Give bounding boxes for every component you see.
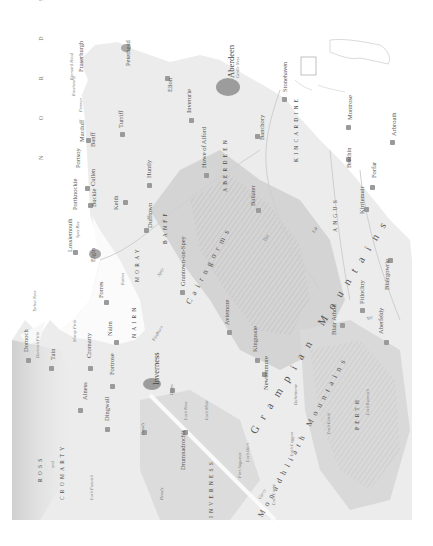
settlement-marker [390, 140, 395, 145]
settlement-marker [282, 97, 287, 102]
town-nairn: Nairn [107, 321, 114, 336]
town-kingussie: Kingussie [252, 326, 259, 352]
town-tain: Tain [50, 349, 57, 360]
town-lossiemouth: Lossiemouth [67, 218, 74, 252]
label-moray-firth: Moray Firth [73, 320, 78, 342]
town-pitlochry: Pitlochry [359, 280, 366, 304]
inset-map [295, 39, 390, 92]
settlement-marker [384, 340, 389, 345]
town-drumnadrochit: Drumnadrochit [180, 430, 187, 470]
label-loch-fannich: Loch Fannich [90, 475, 95, 500]
region-ross: ROSS [38, 455, 44, 482]
town-newtonmore: Newtonmore [263, 356, 270, 390]
settlement-marker [114, 340, 119, 345]
town-aviemore: Aviemore [224, 299, 231, 325]
town-rothes: Rothes [121, 273, 126, 285]
town-beauly: Beauly [141, 423, 146, 436]
town-peterhead: Peterhead [125, 40, 132, 66]
town-alness: Alness [82, 382, 89, 400]
town-dores: Dores [170, 384, 175, 395]
town-huntly: Huntly [146, 160, 153, 178]
town-fortrose: Fortrose [109, 353, 116, 375]
town-stonehaven: Stonehaven [282, 62, 289, 92]
settlement-marker [227, 330, 232, 335]
settlement-marker [256, 208, 261, 213]
town-inverurie: Inverurie [186, 89, 193, 113]
town-blairgowrie: Blairgowrie [384, 259, 391, 290]
region-inverness: INVERNESS [209, 459, 215, 518]
town-ballater: Ballater [250, 185, 257, 206]
settlement-marker [204, 173, 209, 178]
label-loch-laggan: Loch Laggan [290, 432, 295, 456]
region-moray: MORAY [135, 246, 141, 282]
settlement-marker [147, 183, 152, 188]
settlement-marker [78, 408, 83, 413]
town-aberfeldy: Aberfeldy [378, 308, 385, 334]
label-loch-ness: Loch Ness [184, 401, 189, 420]
town-ellon: Ellon [167, 78, 174, 92]
settlement-marker [360, 308, 365, 313]
town-aberdeen: Aberdeen [227, 45, 236, 78]
settlement-marker [110, 384, 115, 389]
settlement-marker [340, 323, 345, 328]
label-girdle-ness: Girdle Ness [236, 57, 241, 78]
sea-label: N O R D S E E [38, 0, 44, 160]
label-tarbat-ness: Tarbat Ness [33, 291, 38, 312]
label-dornoch-firth: Dornoch Firth [36, 332, 41, 358]
town-dornoch: Dornoch [23, 329, 30, 352]
town-elgin: Elgin [90, 248, 97, 262]
town-grantown: Grantown-on-Spey [180, 236, 187, 286]
region-nairn: NAIRN [132, 305, 138, 338]
settlement-marker [85, 186, 90, 191]
town-portsoy: Portsoy [75, 148, 82, 168]
settlement-marker [49, 366, 54, 371]
settlement-marker [120, 132, 125, 137]
label-loch-oich: Loch Oich [246, 443, 251, 462]
town-dufftown: Dufftown [147, 203, 154, 228]
town-forres: Forres [98, 281, 105, 298]
town-dalwhinnie: Dalwhinnie [294, 384, 299, 405]
town-rosehearty: Rosehearty [72, 76, 77, 96]
region-cromarty: CROMARTY [60, 444, 66, 500]
label-loch-mhor: Loch Mhór [205, 400, 210, 420]
town-howe-of-alford: Howe of Alford [201, 127, 208, 168]
settlement-marker [104, 300, 109, 305]
map-canvas: N O R D S E E ROSS and CROMARTY NAIRN MO… [0, 0, 433, 546]
town-inverness: Inverness [152, 352, 161, 385]
settlement-marker [88, 366, 93, 371]
town-fort-augustus: Fort Augustus [238, 452, 243, 478]
town-brechin: Brechin [346, 147, 353, 168]
settlement-marker [255, 358, 260, 363]
town-blair-atholl: Blair Atholl [331, 304, 338, 335]
settlement-marker [73, 250, 78, 255]
town-cromarty: Cromarty [86, 333, 93, 358]
town-dingwall: Dingwall [104, 397, 111, 421]
settlement-marker [123, 200, 128, 205]
town-fraserburgh: Fraserburgh [78, 41, 85, 72]
town-macduff: Macduff [79, 120, 86, 142]
town-keith: Keith [113, 196, 120, 210]
town-turriff: Turriff [118, 111, 125, 128]
region-perth: PERTH [355, 397, 361, 430]
town-banff: Banff [90, 132, 97, 147]
region-aberdeen: ABERDEEN [223, 137, 229, 192]
label-loch-ericht: Loch Ericht [327, 413, 332, 434]
settlement-marker [370, 185, 375, 190]
town-forfar: Forfar [371, 162, 378, 178]
town-montrose: Montrose [347, 95, 354, 120]
town-banchory: Banchory [259, 115, 266, 140]
label-spey-bay: Spey Bay [76, 221, 81, 238]
town-kirriemuir: Kirriemuir [359, 186, 366, 214]
settlement-marker [26, 358, 31, 363]
town-buckie: Buckie [91, 189, 98, 207]
region-and: and [51, 461, 56, 468]
region-kincardine: KINCARDINE [294, 96, 300, 162]
town-cullen: Cullen [90, 169, 97, 186]
town-portknockie: Portknockie [72, 179, 79, 210]
region-banff: BANFF [163, 210, 169, 244]
settlement-marker [144, 228, 149, 233]
settlement-marker [105, 427, 110, 432]
town-arbroath: Arbroath [391, 113, 398, 136]
region-angus: ANGUS [333, 197, 339, 232]
town-pennan: Pennan [79, 98, 84, 112]
